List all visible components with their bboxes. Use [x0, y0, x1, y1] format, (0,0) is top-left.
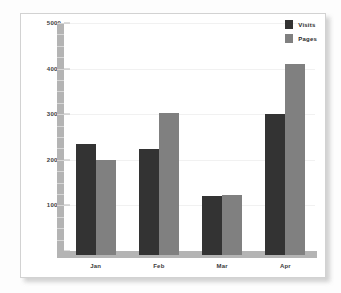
y-axis-tick-label: 4000 [23, 66, 61, 72]
y-tick-mark [64, 114, 70, 115]
y-axis-notch [57, 240, 64, 241]
y-axis-tick-label: 5000 [23, 20, 61, 26]
y-axis-notch [57, 217, 64, 218]
y-axis-notch [57, 69, 64, 70]
y-axis-notch [57, 126, 64, 127]
y-axis-notch [57, 103, 64, 104]
y-axis-notch [57, 160, 64, 161]
bar-feb-pages [159, 113, 179, 255]
y-axis-notch [57, 148, 64, 149]
chart-screenshot: 010002000300040005000JanFebMarApr Visits… [0, 0, 341, 293]
y-gridline [64, 23, 315, 24]
legend-swatch-icon [285, 34, 293, 43]
y-gridline [64, 69, 315, 70]
bar-apr-visits [265, 114, 285, 255]
x-axis-tick-label: Mar [216, 263, 227, 269]
y-axis-tick-label: 2000 [23, 157, 61, 163]
bar-jan-visits [76, 144, 96, 255]
y-axis-tick-label: 0 [23, 248, 61, 254]
y-axis-tick-label: 3000 [23, 111, 61, 117]
chart-legend: VisitsPages [285, 20, 317, 43]
y-axis-band [57, 23, 64, 252]
y-axis-notch [57, 46, 64, 47]
y-tick-mark [64, 205, 70, 206]
x-axis-tick-label: Feb [153, 263, 164, 269]
y-axis-notch [57, 80, 64, 81]
legend-item-pages: Pages [285, 34, 317, 43]
bar-apr-pages [285, 64, 305, 255]
y-axis-notch [57, 194, 64, 195]
legend-item-visits: Visits [285, 20, 317, 29]
y-axis-notch [57, 205, 64, 206]
legend-swatch-icon [285, 20, 293, 29]
y-axis-notch [57, 171, 64, 172]
legend-label: Visits [298, 22, 315, 28]
plot-area: 010002000300040005000JanFebMarApr [21, 14, 325, 277]
y-axis-notch [57, 91, 64, 92]
y-tick-mark [64, 23, 70, 24]
bar-feb-visits [139, 149, 159, 255]
y-tick-mark [64, 68, 70, 69]
x-axis-tick-label: Apr [280, 263, 291, 269]
y-axis-notch [57, 228, 64, 229]
x-axis-tick-label: Jan [90, 263, 101, 269]
y-axis-tick-label: 1000 [23, 202, 61, 208]
chart-panel: 010002000300040005000JanFebMarApr Visits… [20, 13, 326, 278]
bar-jan-pages [96, 160, 116, 255]
y-axis-notch [57, 34, 64, 35]
y-axis-notch [57, 137, 64, 138]
y-tick-mark [64, 159, 70, 160]
legend-label: Pages [298, 36, 317, 42]
y-axis-notch [57, 23, 64, 24]
bar-mar-pages [222, 195, 242, 255]
y-axis-notch [57, 183, 64, 184]
y-axis-notch [57, 114, 64, 115]
bar-mar-visits [202, 196, 222, 255]
y-axis-notch [57, 57, 64, 58]
